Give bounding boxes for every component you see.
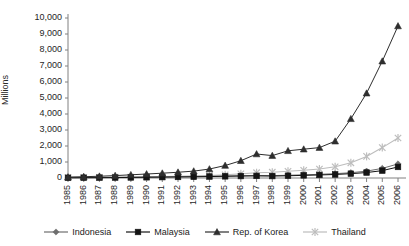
chart-legend: IndonesiaMalaysiaRep. of KoreaThailand bbox=[0, 222, 409, 242]
legend-marker-square-icon bbox=[125, 226, 151, 238]
marker-square bbox=[395, 164, 401, 170]
data-point-marker bbox=[332, 138, 339, 144]
data-point-marker bbox=[348, 159, 354, 167]
data-point-marker bbox=[364, 170, 370, 176]
marker-star bbox=[379, 144, 385, 152]
marker-star bbox=[363, 152, 369, 160]
data-point-marker bbox=[316, 144, 323, 150]
data-point-marker bbox=[395, 164, 401, 170]
data-point-marker bbox=[379, 58, 386, 64]
legend-marker-triangle-icon bbox=[204, 226, 230, 238]
marker-star bbox=[348, 159, 354, 167]
marker-square bbox=[379, 168, 385, 174]
legend-item-malaysia[interactable]: Malaysia bbox=[125, 226, 190, 238]
marker-square bbox=[269, 173, 275, 179]
legend-label: Malaysia bbox=[154, 227, 190, 237]
data-point-marker bbox=[269, 173, 275, 179]
series-rep-of-korea bbox=[65, 23, 402, 180]
data-point-marker bbox=[285, 173, 291, 179]
marker-triangle bbox=[395, 23, 402, 29]
data-point-marker bbox=[379, 144, 385, 152]
data-point-marker bbox=[379, 168, 385, 174]
marker-square bbox=[364, 170, 370, 176]
data-point-marker bbox=[238, 173, 244, 179]
data-point-marker bbox=[317, 172, 323, 178]
plot-area bbox=[0, 0, 409, 246]
data-point-marker bbox=[191, 174, 197, 180]
marker-triangle bbox=[253, 151, 260, 157]
data-point-marker bbox=[395, 134, 401, 142]
data-point-marker bbox=[254, 173, 260, 179]
legend-label: Thailand bbox=[331, 227, 366, 237]
marker-square bbox=[332, 172, 338, 178]
series-line bbox=[68, 26, 398, 177]
legend-marker-diamond-icon bbox=[43, 226, 69, 238]
data-point-marker bbox=[135, 229, 141, 235]
marker-square bbox=[207, 174, 213, 180]
legend-item-rep-of-korea[interactable]: Rep. of Korea bbox=[204, 226, 289, 238]
marker-square bbox=[348, 171, 354, 177]
marker-triangle bbox=[379, 58, 386, 64]
marker-square bbox=[222, 174, 228, 180]
legend-label: Indonesia bbox=[72, 227, 111, 237]
data-point-marker bbox=[53, 229, 59, 235]
marker-triangle bbox=[363, 90, 370, 96]
marker-triangle bbox=[347, 115, 354, 121]
line-chart: Millions 10,0009,0008,0007,0006,0005,000… bbox=[0, 0, 409, 246]
data-point-marker bbox=[363, 152, 369, 160]
data-point-marker bbox=[347, 115, 354, 121]
data-point-marker bbox=[253, 151, 260, 157]
marker-square bbox=[301, 173, 307, 179]
marker-star bbox=[395, 134, 401, 142]
marker-square bbox=[238, 173, 244, 179]
marker-square bbox=[191, 174, 197, 180]
data-point-marker bbox=[237, 157, 244, 163]
marker-triangle bbox=[316, 144, 323, 150]
marker-triangle bbox=[237, 157, 244, 163]
marker-diamond bbox=[53, 229, 59, 235]
marker-square bbox=[254, 173, 260, 179]
data-point-marker bbox=[395, 23, 402, 29]
legend-item-indonesia[interactable]: Indonesia bbox=[43, 226, 111, 238]
data-point-marker bbox=[301, 173, 307, 179]
marker-triangle bbox=[332, 138, 339, 144]
data-point-marker bbox=[348, 171, 354, 177]
data-point-marker bbox=[207, 174, 213, 180]
legend-label: Rep. of Korea bbox=[233, 227, 289, 237]
marker-square bbox=[317, 172, 323, 178]
data-point-marker bbox=[222, 174, 228, 180]
marker-square bbox=[135, 229, 141, 235]
data-point-marker bbox=[332, 172, 338, 178]
marker-square bbox=[285, 173, 291, 179]
legend-item-thailand[interactable]: Thailand bbox=[302, 226, 366, 238]
data-point-marker bbox=[363, 90, 370, 96]
legend-marker-star-icon bbox=[302, 226, 328, 238]
